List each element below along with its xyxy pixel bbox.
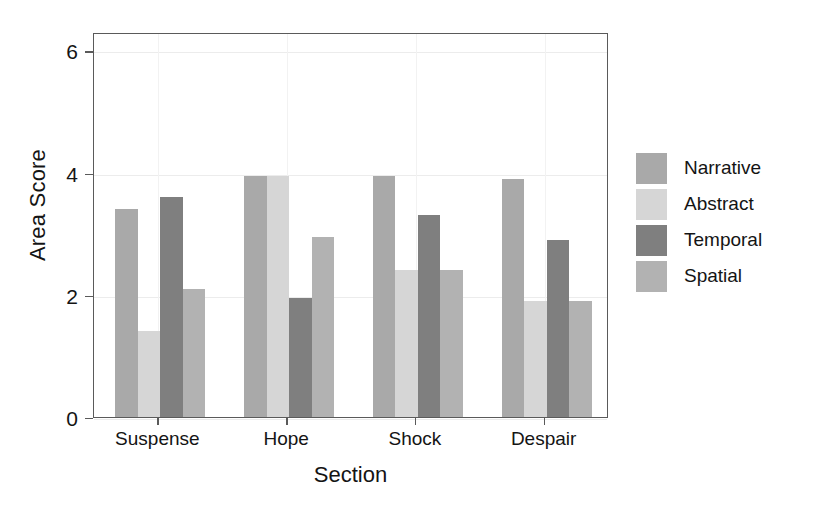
x-axis-tick-mark: [157, 418, 158, 425]
y-axis-tick-label: 2: [26, 285, 78, 309]
bar-temporal-hope: [289, 298, 312, 417]
x-axis-tick-label: Shock: [388, 428, 441, 450]
plot-area: [93, 33, 608, 418]
bar-abstract-suspense: [138, 331, 161, 417]
x-axis-title: Section: [93, 462, 608, 488]
bar-spatial-despair: [569, 301, 592, 417]
y-axis-tick-mark: [85, 296, 93, 297]
bar-spatial-suspense: [183, 289, 206, 417]
legend-swatch-temporal: [636, 225, 667, 256]
y-axis-tick-label: 6: [26, 40, 78, 64]
legend-swatch-abstract: [636, 189, 667, 220]
y-axis-tick-label: 0: [26, 407, 78, 431]
legend-label: Narrative: [684, 157, 761, 179]
y-axis-tick-label: 4: [26, 163, 78, 187]
x-axis-tick-mark: [415, 418, 416, 425]
legend-item-temporal[interactable]: Temporal: [636, 222, 822, 258]
bar-temporal-despair: [547, 240, 570, 417]
legend-swatch-spatial: [636, 261, 667, 292]
legend-label: Abstract: [684, 193, 754, 215]
legend-item-abstract[interactable]: Abstract: [636, 186, 822, 222]
bar-chart-figure: Area Score 0246 SuspenseHopeShockDespair…: [0, 0, 828, 515]
legend-item-narrative[interactable]: Narrative: [636, 150, 822, 186]
legend-item-spatial[interactable]: Spatial: [636, 258, 822, 294]
x-axis-tick-label: Despair: [511, 428, 576, 450]
legend-label: Spatial: [684, 265, 742, 287]
bar-temporal-suspense: [160, 197, 183, 417]
legend-label: Temporal: [684, 229, 762, 251]
x-axis-tick-mark: [544, 418, 545, 425]
gridline: [94, 52, 607, 53]
y-axis-tick-mark: [85, 174, 93, 175]
x-axis-tick-mark: [286, 418, 287, 425]
gridline: [94, 419, 607, 420]
bar-abstract-shock: [395, 270, 418, 417]
x-axis-tick-label: Hope: [263, 428, 308, 450]
bar-abstract-hope: [267, 176, 290, 417]
gridline: [94, 175, 607, 176]
y-axis-tick-mark: [85, 418, 93, 419]
bar-narrative-suspense: [115, 209, 138, 417]
bar-narrative-shock: [373, 176, 396, 417]
y-axis-title: Area Score: [25, 105, 51, 305]
legend: NarrativeAbstractTemporalSpatial: [636, 150, 822, 294]
bar-abstract-despair: [524, 301, 547, 417]
bar-narrative-despair: [502, 179, 525, 417]
bar-narrative-hope: [244, 176, 267, 417]
bar-spatial-hope: [312, 237, 335, 417]
bar-temporal-shock: [418, 215, 441, 417]
bar-spatial-shock: [440, 270, 463, 417]
legend-swatch-narrative: [636, 153, 667, 184]
y-axis-tick-mark: [85, 51, 93, 52]
x-axis-tick-label: Suspense: [115, 428, 200, 450]
